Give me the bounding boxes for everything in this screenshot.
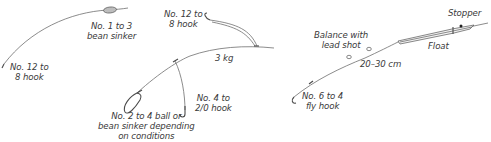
- label-line: lead shot: [314, 40, 368, 50]
- hook-icon: [2, 64, 4, 68]
- label-dropper-hook: No. 4 to 2/0 hook: [195, 93, 232, 113]
- stopper-icon: [460, 25, 463, 28]
- dropper-line: [175, 61, 185, 110]
- label-line-weight: 3 kg: [215, 53, 233, 63]
- label-float: Float: [428, 41, 449, 51]
- lead-shot-icon: [347, 55, 352, 58]
- float-inner-line: [400, 27, 472, 42]
- snood-line: [210, 20, 257, 46]
- label-line: 3 kg: [215, 53, 233, 63]
- label-top-hook: No. 12 to 8 hook: [164, 9, 203, 29]
- label-distance: 20–30 cm: [360, 59, 401, 69]
- label-line: Balance with: [314, 30, 368, 40]
- label-stopper: Stopper: [448, 8, 481, 18]
- label-line: Float: [428, 41, 449, 51]
- label-line: on conditions: [98, 131, 195, 141]
- bean-sinker-icon: [103, 6, 117, 13]
- label-line: 2/0 hook: [195, 103, 232, 113]
- label-line: No. 1 to 3: [87, 21, 136, 31]
- rig-illustrations: [0, 0, 491, 142]
- label-line: No. 12 to: [164, 9, 203, 19]
- label-line: No. 6 to 4: [302, 91, 343, 101]
- label-ball-sinker: No. 2 to 4 ball or bean sinker depending…: [98, 111, 195, 141]
- label-line: No. 4 to: [195, 93, 232, 103]
- label-line: 8 hook: [164, 19, 203, 29]
- label-line: fly hook: [302, 101, 343, 111]
- label-line: No. 12 to: [10, 62, 49, 72]
- label-line: bean sinker depending: [98, 121, 195, 131]
- label-fly-hook: No. 6 to 4 fly hook: [302, 91, 343, 111]
- label-line: 8 hook: [10, 72, 49, 82]
- label-hook-12-8: No. 12 to 8 hook: [10, 62, 49, 82]
- label-line: No. 2 to 4 ball or: [98, 111, 195, 121]
- label-line: Stopper: [448, 8, 481, 18]
- label-line: 20–30 cm: [360, 59, 401, 69]
- fly-hook-icon: [292, 97, 296, 103]
- label-lead-shot: Balance with lead shot: [314, 30, 368, 50]
- label-bean-sinker: No. 1 to 3 bean sinker: [87, 21, 136, 41]
- fishing-rigs-diagram: No. 1 to 3 bean sinker No. 12 to 8 hook …: [0, 0, 491, 142]
- top-hook-icon: [205, 13, 210, 20]
- main-line: [137, 47, 274, 93]
- label-line: bean sinker: [87, 31, 136, 41]
